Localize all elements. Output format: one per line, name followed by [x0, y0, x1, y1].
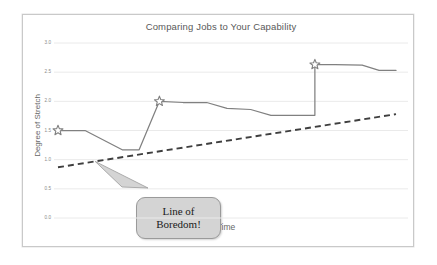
y-tick-0-5: 0.5	[29, 187, 51, 192]
chart-frame: Comparing Jobs to Your Capability Degree…	[22, 14, 414, 247]
callout-line-1: Line of	[162, 205, 194, 218]
y-tick-2-5: 2.5	[29, 70, 51, 75]
chart-title: Comparing Jobs to Your Capability	[71, 21, 371, 32]
y-tick-1-0: 1.0	[29, 158, 51, 163]
y-tick-3-0: 3.0	[29, 41, 51, 46]
y-tick-0-0: 0.0	[29, 216, 51, 221]
callout-line-2: Boredom!	[156, 218, 201, 231]
y-tick-1-5: 1.5	[29, 129, 51, 134]
line-of-boredom-callout: Line of Boredom!	[136, 197, 221, 239]
y-tick-2-0: 2.0	[29, 99, 51, 104]
